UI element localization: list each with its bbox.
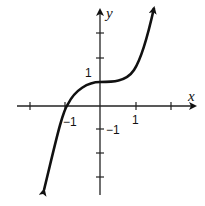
x-tick-label-1: 1: [132, 113, 139, 127]
cubic-curve: [44, 8, 154, 190]
y-tick-label-neg1: −1: [106, 123, 120, 137]
x-axis-label: x: [187, 88, 195, 104]
x-tick-label-neg1: −1: [63, 115, 77, 129]
y-axis-label: y: [104, 5, 113, 21]
function-graph: y x 1 −1 1 −1: [0, 0, 205, 206]
y-tick-label-1: 1: [85, 66, 92, 80]
